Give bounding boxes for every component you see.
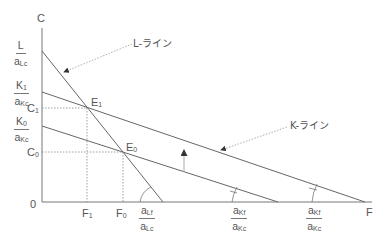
point-e1-label: E1 [91, 97, 102, 108]
k0-slope-label: aKf aKc [231, 205, 247, 232]
c0-label: C0 [27, 147, 39, 158]
l-line-callout: L-ライン [133, 39, 172, 49]
c1-label: C1 [27, 103, 39, 114]
f0-label: F0 [116, 208, 127, 219]
k1-line-angle-arc [312, 184, 317, 202]
l-line-angle-arc [140, 187, 151, 202]
l-line-callout-arrow [64, 44, 132, 72]
k0-line [42, 126, 278, 202]
k1-angle-tick [309, 188, 317, 190]
point-e0-label: E0 [126, 142, 137, 153]
k1-slope-label: aKf aKc [306, 205, 322, 232]
origin-label: 0 [30, 199, 36, 210]
k0-intercept-label: K0 aKc [14, 116, 29, 143]
k-line-callout: K-ライン [290, 121, 329, 131]
l-intercept-label: L aLc [14, 40, 27, 67]
k0-line-angle-arc [232, 187, 237, 202]
x-axis-label: F [366, 207, 373, 218]
l-slope-label: aLf aLc [139, 205, 155, 232]
k0-angle-tick [230, 191, 237, 193]
f1-label: F1 [82, 208, 93, 219]
y-axis-label: C [37, 13, 45, 24]
k-line-callout-arrow [221, 127, 287, 150]
diagram-canvas [0, 0, 390, 237]
